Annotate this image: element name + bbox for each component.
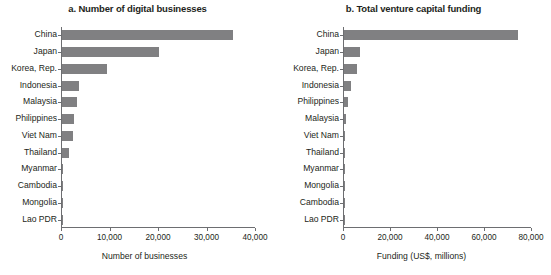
panel-a-title: a. Number of digital businesses <box>0 3 275 14</box>
panel-a-bars <box>61 27 255 228</box>
y-axis-tick <box>340 169 343 170</box>
y-axis-tick <box>58 169 61 170</box>
y-axis-tick <box>340 35 343 36</box>
x-axis-tick-label: 80,000 <box>518 233 543 242</box>
category-label: Japan <box>276 47 339 56</box>
category-label: Indonesia <box>0 81 57 90</box>
bar-row <box>343 44 531 61</box>
y-axis-tick <box>340 186 343 187</box>
y-axis-tick <box>340 136 343 137</box>
y-axis-tick <box>340 52 343 53</box>
panel-a-plot-area: 010,00020,00030,00040,000 <box>61 27 255 228</box>
category-label: Korea, Rep. <box>0 64 57 73</box>
x-axis-tick-label: 20,000 <box>145 233 170 242</box>
y-axis-tick <box>340 203 343 204</box>
y-axis-tick <box>58 86 61 87</box>
category-label: China <box>276 30 339 39</box>
bar <box>62 30 233 40</box>
chart-panel-b: b. Total venture capital funding ChinaJa… <box>276 0 551 275</box>
category-label: Indonesia <box>276 81 339 90</box>
category-label: Cambodia <box>276 198 339 207</box>
bar <box>62 215 63 225</box>
x-axis-tick <box>484 228 485 231</box>
category-label: Japan <box>0 47 57 56</box>
bar-row <box>343 27 531 44</box>
x-axis-tick-label: 0 <box>59 233 64 242</box>
bar-row <box>343 111 531 128</box>
bar <box>62 148 69 158</box>
category-label: Malaysia <box>276 114 339 123</box>
panel-a-category-labels: ChinaJapanKorea, Rep.IndonesiaMalaysiaPh… <box>0 27 57 228</box>
bar <box>62 97 77 107</box>
figure-two-panel-bar-charts: a. Number of digital businesses ChinaJap… <box>0 0 551 275</box>
bar-row <box>61 128 255 145</box>
bar-row <box>343 94 531 111</box>
category-label: Myanmar <box>276 164 339 173</box>
y-axis-tick <box>340 153 343 154</box>
y-axis-tick <box>58 136 61 137</box>
category-label: Malaysia <box>0 97 57 106</box>
x-axis-tick <box>437 228 438 231</box>
x-axis-tick <box>343 228 344 231</box>
category-label: Viet Nam <box>0 131 57 140</box>
panel-b-x-axis-title: Funding (US$, millions) <box>292 251 551 261</box>
bar <box>62 181 63 191</box>
bar <box>62 131 73 141</box>
bar-row <box>61 27 255 44</box>
bar-row <box>343 161 531 178</box>
category-label: Lao PDR <box>276 215 339 224</box>
bar <box>62 114 74 124</box>
x-axis-tick <box>61 228 62 231</box>
category-label: Lao PDR <box>0 215 57 224</box>
bar <box>62 47 159 57</box>
x-axis-tick <box>255 228 256 231</box>
y-axis-tick <box>58 220 61 221</box>
bar-row <box>343 144 531 161</box>
category-label: Thailand <box>276 148 339 157</box>
bar <box>62 164 63 174</box>
bar-row <box>61 111 255 128</box>
x-axis-tick <box>390 228 391 231</box>
category-label: Cambodia <box>0 181 57 190</box>
bar <box>344 181 345 191</box>
x-axis-tick-label: 10,000 <box>97 233 122 242</box>
bar-row <box>61 77 255 94</box>
bar-row <box>61 211 255 228</box>
x-axis-tick <box>207 228 208 231</box>
panel-b-title: b. Total venture capital funding <box>276 3 551 14</box>
bar-row <box>61 61 255 78</box>
bar <box>344 131 345 141</box>
y-axis-tick <box>58 153 61 154</box>
x-axis-tick <box>158 228 159 231</box>
category-label: Viet Nam <box>276 131 339 140</box>
x-axis-tick-label: 20,000 <box>377 233 402 242</box>
bar <box>62 64 107 74</box>
bar <box>344 215 345 225</box>
category-label: China <box>0 30 57 39</box>
category-label: Mongolia <box>0 198 57 207</box>
chart-panel-a: a. Number of digital businesses ChinaJap… <box>0 0 275 275</box>
bar-row <box>343 195 531 212</box>
bar <box>62 81 79 91</box>
x-axis-tick-label: 40,000 <box>242 233 267 242</box>
bar-row <box>343 128 531 145</box>
y-axis-tick <box>58 203 61 204</box>
x-axis-tick-label: 60,000 <box>471 233 496 242</box>
y-axis-tick <box>58 186 61 187</box>
panel-b-bars <box>343 27 531 228</box>
y-axis-tick <box>340 69 343 70</box>
bar-row <box>343 77 531 94</box>
x-axis-tick <box>531 228 532 231</box>
bar-row <box>61 195 255 212</box>
bar <box>344 148 345 158</box>
y-axis-tick <box>340 102 343 103</box>
y-axis-tick <box>58 119 61 120</box>
bar-row <box>61 161 255 178</box>
bar <box>344 30 518 40</box>
panel-b-plot-area: 020,00040,00060,00080,000 <box>343 27 531 228</box>
category-label: Thailand <box>0 148 57 157</box>
bar <box>344 47 360 57</box>
bar <box>344 198 345 208</box>
bar <box>344 114 346 124</box>
y-axis-tick <box>340 119 343 120</box>
